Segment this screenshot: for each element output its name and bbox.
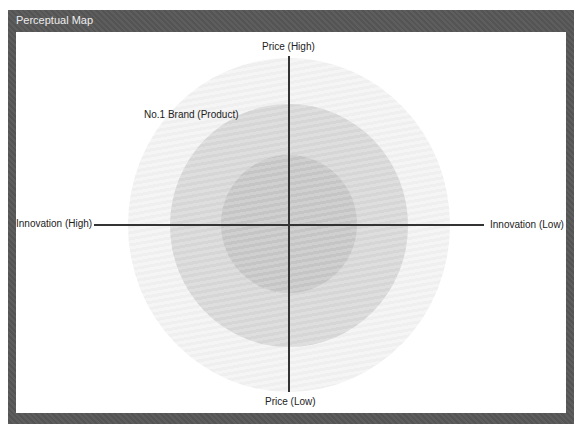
axis-label-price-low: Price (Low) (265, 396, 316, 407)
brand-annotation: No.1 Brand (Product) (144, 109, 239, 120)
axis-label-innovation-high: Innovation (High) (16, 218, 92, 229)
innovation-axis (94, 224, 484, 226)
perceptual-map-canvas: Price (High) Price (Low) Innovation (Hig… (16, 32, 566, 413)
axis-label-innovation-low: Innovation (Low) (490, 219, 564, 230)
panel-title: Perceptual Map (16, 14, 93, 26)
axis-label-price-high: Price (High) (262, 41, 315, 52)
